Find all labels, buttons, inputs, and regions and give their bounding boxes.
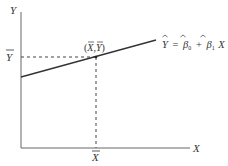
x-bar-label: X [91, 151, 100, 163]
svg-text:Y: Y [6, 51, 14, 63]
y-bar-label: Y [6, 50, 14, 63]
regression-equation: Y = β0 + β1 X [162, 35, 225, 52]
y-axis-label: Y [10, 4, 18, 16]
regression-diagram: Y X Y X (X,Y) Y = β0 + β1 X [0, 0, 228, 166]
mean-point [95, 56, 98, 59]
svg-text:(X,Y): (X,Y) [84, 42, 105, 54]
x-axis-label: X [192, 142, 201, 154]
mean-point-label: (X,Y) [84, 42, 105, 54]
svg-text:Y = β0 +: Y = β0 + β1 X [162, 39, 225, 52]
svg-text:X: X [91, 151, 100, 163]
